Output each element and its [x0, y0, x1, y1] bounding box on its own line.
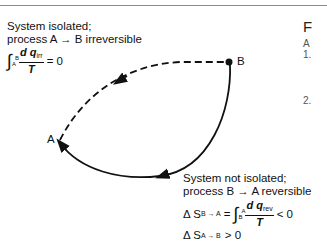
not-isolated-label: System not isolated; — [183, 172, 287, 185]
reversible-path — [60, 64, 230, 177]
reversible-label: process B → A reversible — [183, 185, 311, 198]
arrow-into-a-icon — [61, 144, 66, 150]
point-b-dot — [226, 59, 233, 66]
integral-sign: ∫AB — [233, 205, 238, 223]
irreversible-path — [60, 62, 228, 140]
point-a-label: A — [47, 133, 55, 145]
point-b-label: B — [237, 55, 245, 67]
side-item-2: 2. — [303, 95, 311, 106]
side-heading: F — [303, 18, 312, 35]
side-item-1: 1. — [303, 49, 311, 60]
reversible-arrow-icon — [162, 174, 168, 176]
fraction: d qrev T — [245, 199, 273, 228]
reversible-equation: Δ SB → A = ∫AB d qrev T < 0 — [183, 199, 293, 228]
entropy-change-equation: Δ SA → B > 0 — [183, 229, 241, 241]
side-line-a: A — [303, 38, 310, 49]
